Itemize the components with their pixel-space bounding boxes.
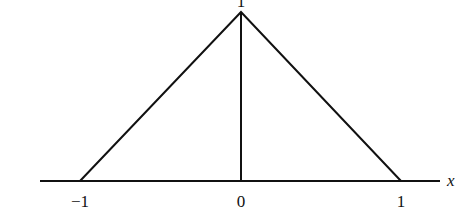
tick-label-0: 0	[237, 192, 246, 211]
peak-label: 1	[237, 0, 246, 11]
hat-function-diagram: 1 −1 0 1 x	[0, 0, 475, 216]
tick-label-neg1: −1	[71, 192, 89, 211]
x-axis-label: x	[446, 171, 455, 190]
tick-label-1: 1	[397, 192, 406, 211]
